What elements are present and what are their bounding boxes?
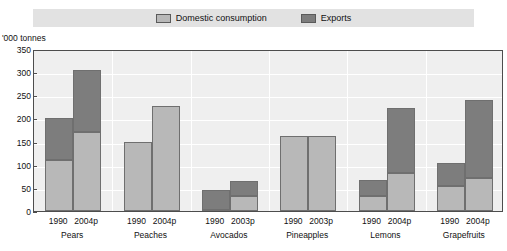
- bar-pineapples-2003p: [308, 136, 336, 211]
- bar-segment-domestic: [387, 173, 415, 211]
- bar-segment-domestic: [359, 196, 387, 211]
- y-tick-label: 350: [3, 46, 31, 55]
- x-tick-label-year: 2004p: [145, 216, 185, 226]
- x-axis-labels: 19902004pPears19902004pPeaches19902003pA…: [33, 213, 503, 251]
- bar-peaches-1990: [124, 142, 152, 211]
- bar-segment-exports: [437, 163, 465, 185]
- y-tick-mark: [33, 96, 37, 97]
- bar-segment-domestic: [73, 132, 101, 211]
- bar-segment-domestic: [124, 142, 152, 211]
- bar-segment-exports: [45, 118, 73, 160]
- gridline-horizontal: [34, 97, 502, 98]
- bar-segment-exports: [73, 70, 101, 132]
- bar-segment-exports: [387, 108, 415, 173]
- bar-segment-exports: [359, 180, 387, 196]
- y-axis-unit-label: '000 tonnes: [2, 33, 46, 43]
- bar-pineapples-1990: [280, 136, 308, 211]
- y-tick-mark: [33, 73, 37, 74]
- bar-segment-domestic: [437, 186, 465, 211]
- y-tick-label: 300: [3, 69, 31, 78]
- chart-plot-area: [33, 50, 503, 212]
- bar-segment-domestic: [465, 178, 493, 211]
- legend-label-exports: Exports: [321, 13, 352, 23]
- legend-entry-exports: Exports: [301, 13, 352, 23]
- x-group-label: Peaches: [111, 230, 189, 240]
- y-axis-labels: 050100150200250300350: [0, 50, 31, 212]
- gridline-horizontal: [34, 190, 502, 191]
- bar-segment-domestic: [230, 196, 258, 211]
- bar-grapefruits-1990: [437, 163, 465, 211]
- y-tick-label: 150: [3, 138, 31, 147]
- x-tick-label-year: 2003p: [223, 216, 263, 226]
- bar-segment-exports: [465, 100, 493, 178]
- gridline-vertical: [426, 51, 427, 211]
- x-group-label: Lemons: [346, 230, 424, 240]
- bar-lemons-2004p: [387, 108, 415, 211]
- legend-swatch-exports: [301, 14, 316, 23]
- y-tick-label: 50: [3, 184, 31, 193]
- x-tick-label-year: 2004p: [458, 216, 498, 226]
- bar-avocados-1990: [202, 190, 230, 211]
- x-group-label: Pineapples: [268, 230, 346, 240]
- y-tick-mark: [33, 189, 37, 190]
- x-group-label: Pears: [33, 230, 111, 240]
- gridline-horizontal: [34, 74, 502, 75]
- gridline-vertical: [112, 51, 113, 211]
- bar-pears-2004p: [73, 70, 101, 211]
- y-tick-label: 250: [3, 92, 31, 101]
- y-tick-mark: [33, 212, 37, 213]
- bar-grapefruits-2004p: [465, 100, 493, 211]
- bar-peaches-2004p: [152, 106, 180, 211]
- y-tick-label: 100: [3, 161, 31, 170]
- gridline-horizontal: [34, 167, 502, 168]
- x-group-label: Grapefruits: [425, 230, 503, 240]
- bar-lemons-1990: [359, 180, 387, 211]
- bar-segment-exports: [230, 181, 258, 196]
- gridline-horizontal: [34, 120, 502, 121]
- legend-label-domestic: Domestic consumption: [176, 13, 267, 23]
- legend-swatch-domestic: [156, 14, 171, 23]
- bar-segment-domestic: [45, 160, 73, 211]
- bar-segment-exports: [202, 190, 230, 209]
- x-tick-label-year: 2004p: [66, 216, 106, 226]
- gridline-vertical: [191, 51, 192, 211]
- x-tick-label-year: 2004p: [380, 216, 420, 226]
- gridline-vertical: [269, 51, 270, 211]
- bar-avocados-2003p: [230, 181, 258, 211]
- chart-legend: Domestic consumption Exports: [33, 9, 474, 27]
- y-tick-mark: [33, 119, 37, 120]
- y-tick-mark: [33, 143, 37, 144]
- x-group-label: Avocados: [190, 230, 268, 240]
- x-tick-label-year: 2003p: [301, 216, 341, 226]
- bar-segment-domestic: [280, 136, 308, 211]
- y-tick-mark: [33, 166, 37, 167]
- y-tick-label: 0: [3, 208, 31, 217]
- gridline-vertical: [347, 51, 348, 211]
- gridline-horizontal: [34, 144, 502, 145]
- legend-entry-domestic: Domestic consumption: [156, 13, 267, 23]
- bar-segment-domestic: [308, 136, 336, 211]
- bar-segment-domestic: [152, 106, 180, 211]
- y-tick-label: 200: [3, 115, 31, 124]
- bar-pears-1990: [45, 118, 73, 211]
